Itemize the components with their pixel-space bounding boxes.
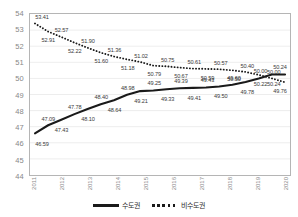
data-point-label: 50.59 xyxy=(201,75,215,81)
data-point-label: 47.78 xyxy=(68,104,82,110)
data-point-label: 47.09 xyxy=(42,116,56,122)
data-point-label: 52.91 xyxy=(42,37,56,43)
x-axis-tick-label: 2020 xyxy=(283,177,289,190)
x-axis-tick-label: 2017 xyxy=(199,177,205,190)
y-axis-tick-label: 54 xyxy=(15,9,24,18)
legend-swatch-icon xyxy=(93,204,119,207)
x-axis-tick-label: 2013 xyxy=(87,177,93,190)
data-point-label: 49.33 xyxy=(161,96,175,102)
data-point-label: 49.21 xyxy=(134,98,148,104)
data-point-label: 50.79 xyxy=(148,71,162,77)
y-axis-tick-label: 47 xyxy=(15,123,24,132)
data-point-label: 48.40 xyxy=(95,94,109,100)
data-point-label: 51.36 xyxy=(108,47,122,53)
x-axis-tick-label: 2016 xyxy=(171,177,177,190)
data-point-label: 52.22 xyxy=(68,48,82,54)
data-point-label: 51.02 xyxy=(134,53,148,59)
data-point-label: 49.50 xyxy=(214,93,228,99)
data-point-label: 49.78 xyxy=(240,89,254,95)
y-axis-tick-label: 46 xyxy=(15,139,24,148)
plot-area: 46.5947.0947.4347.7848.1048.4048.6448.98… xyxy=(29,13,291,176)
y-axis-tick-label: 53 xyxy=(15,25,24,34)
data-point-label: 53.41 xyxy=(35,14,49,20)
data-point-label: 48.10 xyxy=(81,116,95,122)
data-point-label: 47.43 xyxy=(55,127,69,133)
y-axis-tick-label: 51 xyxy=(15,57,24,66)
data-point-label: 50.75 xyxy=(161,57,175,63)
chart-legend: 수도권비수도권 xyxy=(0,197,298,213)
x-axis-tick-label: 2011 xyxy=(31,177,37,190)
legend-item[interactable]: 수도권 xyxy=(93,200,140,210)
y-axis-tick-label: 50 xyxy=(15,74,24,83)
x-axis-tick-label: 2012 xyxy=(59,177,65,190)
legend-label: 수도권 xyxy=(122,200,140,210)
x-axis-tick-label: 2019 xyxy=(255,177,261,190)
data-point-label: 52.57 xyxy=(55,27,69,33)
y-axis-tick-label: 49 xyxy=(15,90,24,99)
legend-label: 비수도권 xyxy=(181,200,205,210)
data-labels: 46.5947.0947.4347.7848.1048.4048.6448.98… xyxy=(30,14,290,175)
data-point-label: 49.76 xyxy=(273,88,287,94)
data-point-label: 50.22 xyxy=(254,81,268,87)
y-axis-tick-label: 44 xyxy=(15,172,24,181)
data-point-label: 50.00 xyxy=(254,68,268,74)
x-axis-tick-label: 2015 xyxy=(143,177,149,190)
data-point-label: 51.18 xyxy=(121,65,135,71)
data-point-label: 50.24 xyxy=(267,81,281,87)
data-point-label: 50.00 xyxy=(267,69,281,75)
data-point-label: 46.59 xyxy=(35,141,49,147)
data-point-label: 50.40 xyxy=(240,63,254,69)
y-axis-tick-label: 48 xyxy=(15,106,24,115)
x-axis-tick-label: 2014 xyxy=(115,177,121,190)
data-point-label: 50.61 xyxy=(187,59,201,65)
data-point-label: 51.60 xyxy=(95,58,109,64)
data-point-label: 51.90 xyxy=(81,38,95,44)
y-axis: 4445464748495051525354 xyxy=(0,13,27,176)
chart-container: 4445464748495051525354 46.5947.0947.4347… xyxy=(0,0,298,217)
data-point-label: 48.98 xyxy=(121,85,135,91)
legend-item[interactable]: 비수도권 xyxy=(152,200,205,210)
y-axis-tick-label: 45 xyxy=(15,155,24,164)
data-point-label: 50.50 xyxy=(227,76,241,82)
data-point-label: 48.64 xyxy=(108,107,122,113)
x-axis-tick-label: 2018 xyxy=(227,177,233,190)
data-point-label: 49.25 xyxy=(148,80,162,86)
data-point-label: 50.57 xyxy=(214,60,228,66)
data-point-label: 50.67 xyxy=(174,73,188,79)
data-point-label: 49.41 xyxy=(187,95,201,101)
y-axis-tick-label: 52 xyxy=(15,41,24,50)
legend-swatch-icon xyxy=(152,204,178,207)
x-axis: 2011201220132014201520162017201820192020 xyxy=(29,177,291,197)
